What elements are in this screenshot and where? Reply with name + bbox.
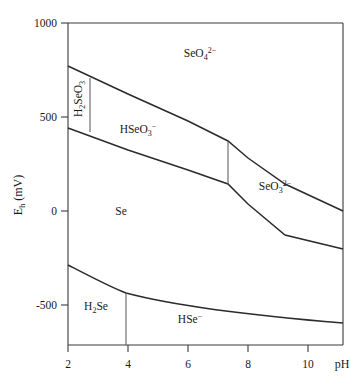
species-seo4-base: SeO (184, 47, 204, 59)
y-axis-tick-labels: 1000 500 0 -500 (34, 17, 57, 311)
plot-frame (68, 23, 343, 345)
species-label-hse: HSe− (178, 312, 203, 325)
x-tick-label-2: 2 (65, 358, 71, 370)
species-seo3-sup: 2− (283, 179, 292, 188)
x-tick-label-8: 8 (245, 358, 251, 370)
y-axis-title-unit: (mV) (11, 175, 25, 204)
y-tick-label-1000: 1000 (34, 17, 57, 29)
species-label-seo4: SeO42− (184, 46, 217, 62)
eh-ph-diagram-canvas: 1000 500 0 -500 2 4 6 8 10 pH Eh (mV) (0, 0, 357, 385)
svg-text:H2SeO3: H2SeO3 (72, 81, 87, 117)
y-axis-title-main: E (11, 208, 25, 215)
species-label-se: Se (115, 205, 127, 217)
species-label-h2seo3: H2SeO3 (72, 81, 87, 117)
species-seo4-sup: 2− (208, 46, 217, 55)
species-h2seo3-base-a: H (72, 109, 84, 117)
species-label-h2se: H2Se (84, 300, 108, 315)
y-tick-label-0: 0 (51, 205, 57, 217)
species-h2seo3-base-b: SeO (72, 85, 84, 105)
y-tick-label-neg500: -500 (36, 299, 57, 311)
species-h2se-base-a: H (84, 300, 92, 312)
x-tick-label-6: 6 (185, 358, 191, 370)
x-axis-title: pH (335, 357, 350, 371)
species-h2se-base-b: Se (96, 300, 108, 312)
y-axis-ticks (61, 23, 68, 305)
x-axis-tick-labels: 2 4 6 8 10 (65, 358, 314, 370)
species-h2seo3-sub-b: 3 (78, 81, 87, 85)
species-seo3-base: SeO (259, 180, 279, 192)
boundary-se-selenide (68, 265, 343, 323)
species-hseo3-sup: − (152, 122, 157, 131)
boundary-selenite-se (68, 128, 343, 249)
y-axis-title: Eh (mV) (11, 175, 27, 215)
boundary-seo4-upper (68, 66, 343, 211)
x-tick-label-10: 10 (302, 358, 314, 370)
species-hseo3-base: HSeO (120, 123, 148, 135)
species-hse-base: HSe (178, 313, 198, 325)
x-axis-ticks (68, 345, 308, 352)
species-hse-sup: − (198, 312, 203, 321)
x-tick-label-4: 4 (125, 358, 131, 370)
species-label-seo3: SeO32− (259, 179, 292, 195)
pourbaix-diagram-figure: 1000 500 0 -500 2 4 6 8 10 pH Eh (mV) (0, 0, 357, 385)
species-label-hseo3: HSeO3− (120, 122, 157, 138)
y-tick-label-500: 500 (40, 111, 58, 123)
svg-text:Eh (mV): Eh (mV) (11, 175, 27, 215)
